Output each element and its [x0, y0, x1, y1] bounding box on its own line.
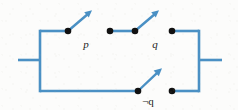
- switch-q-contact-node[interactable]: [169, 28, 176, 35]
- switch-not-q-pivot-node[interactable]: [135, 88, 142, 95]
- switch-p[interactable]: p: [65, 10, 114, 49]
- switch-q-lever[interactable]: [135, 14, 156, 32]
- switch-not-q[interactable]: ¬q: [135, 68, 176, 106]
- switch-not-q-lever[interactable]: [138, 72, 158, 91]
- switch-p-label: p: [82, 38, 89, 50]
- circuit-diagram-canvas: p q ¬q: [0, 0, 238, 110]
- switch-not-q-label: ¬q: [142, 95, 154, 107]
- switch-p-lever[interactable]: [68, 14, 89, 32]
- switch-p-pivot-node[interactable]: [65, 28, 72, 35]
- switch-p-contact-node[interactable]: [107, 28, 114, 35]
- switch-not-q-contact-node[interactable]: [169, 88, 176, 95]
- circuit-frame: [40, 30, 199, 93]
- switch-q-label: q: [152, 38, 158, 50]
- switch-q[interactable]: q: [132, 10, 176, 49]
- switch-q-pivot-node[interactable]: [132, 28, 139, 35]
- circuit-figure: p q ¬q: [0, 0, 238, 110]
